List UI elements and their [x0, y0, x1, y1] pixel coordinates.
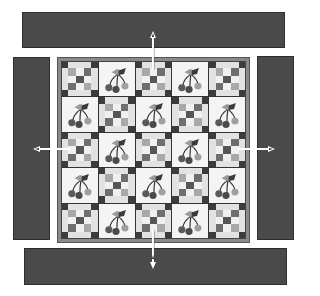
- nine-patch-square: [179, 126, 187, 132]
- nine-patch-square: [165, 154, 171, 161]
- nine-patch-square: [202, 111, 208, 118]
- nine-patch-square: [121, 126, 129, 132]
- nine-patch-square: [157, 90, 165, 96]
- nine-patch-square: [165, 139, 171, 146]
- nine-patch-square: [84, 224, 92, 231]
- nine-patch-square: [68, 210, 76, 217]
- nine-patch-square: [76, 68, 84, 75]
- nine-patch-square: [179, 182, 187, 189]
- nine-patch-square: [68, 161, 76, 167]
- nine-patch-square: [68, 232, 76, 238]
- nine-patch-square: [239, 90, 245, 96]
- nine-patch-square: [142, 139, 150, 146]
- nine-patch-square: [194, 111, 202, 118]
- cherry-applique-block: [172, 62, 208, 96]
- nine-patch-square: [216, 217, 224, 224]
- nine-patch-square: [142, 76, 150, 83]
- nine-patch-square: [202, 189, 208, 196]
- nine-patch-square: [150, 146, 158, 153]
- quilt-block-grid: [61, 61, 246, 239]
- nine-patch-square: [165, 217, 171, 224]
- nine-patch-square: [76, 232, 84, 238]
- nine-patch-square: [150, 210, 158, 217]
- nine-patch-square: [216, 90, 224, 96]
- cherry-applique-block: [99, 62, 135, 96]
- nine-patch-square: [179, 104, 187, 111]
- left-arrow-icon: [30, 144, 70, 154]
- nine-patch-square: [142, 210, 150, 217]
- nine-patch-square: [84, 217, 92, 224]
- nine-patch-square: [239, 83, 245, 90]
- nine-patch-square: [239, 217, 245, 224]
- nine-patch-square: [179, 111, 187, 118]
- nine-patch-square: [157, 83, 165, 90]
- nine-patch-square: [186, 189, 194, 196]
- nine-patch-square: [231, 83, 239, 90]
- nine-patch-square: [84, 161, 92, 167]
- nine-patch-square: [165, 224, 171, 231]
- nine-patch-square: [223, 139, 231, 146]
- cherry-applique-block: [209, 168, 245, 202]
- nine-patch-square: [68, 90, 76, 96]
- nine-patch-square: [223, 217, 231, 224]
- nine-patch-square: [216, 210, 224, 217]
- nine-patch-square: [223, 83, 231, 90]
- nine-patch-square: [91, 146, 97, 153]
- nine-patch-square: [157, 76, 165, 83]
- nine-patch-square: [150, 161, 158, 167]
- nine-patch-square: [231, 217, 239, 224]
- nine-patch-square: [91, 217, 97, 224]
- nine-patch-square: [216, 146, 224, 153]
- nine-patch-square: [128, 118, 134, 125]
- nine-patch-square: [76, 224, 84, 231]
- nine-patch-square: [157, 210, 165, 217]
- nine-patch-square: [165, 161, 171, 167]
- nine-patch-square: [202, 196, 208, 202]
- nine-patch-square: [223, 232, 231, 238]
- nine-patch-square: [113, 111, 121, 118]
- nine-patch-square: [105, 174, 113, 181]
- nine-patch-square: [157, 217, 165, 224]
- nine-patch-square: [157, 154, 165, 161]
- nine-patch-square: [113, 118, 121, 125]
- nine-patch-square: [68, 224, 76, 231]
- nine-patch-square: [142, 90, 150, 96]
- nine-patch-square: [165, 210, 171, 217]
- nine-patch-square: [68, 154, 76, 161]
- nine-patch-square: [194, 174, 202, 181]
- nine-patch-square: [186, 118, 194, 125]
- nine-patch-square: [128, 104, 134, 111]
- nine-patch-square: [76, 76, 84, 83]
- nine-patch-block: [99, 97, 135, 131]
- cherry-applique-block: [172, 204, 208, 238]
- nine-patch-block: [209, 204, 245, 238]
- nine-patch-square: [121, 104, 129, 111]
- nine-patch-square: [121, 118, 129, 125]
- nine-patch-square: [84, 76, 92, 83]
- cherry-applique-block: [209, 97, 245, 131]
- nine-patch-square: [91, 232, 97, 238]
- nine-patch-square: [76, 90, 84, 96]
- nine-patch-square: [76, 217, 84, 224]
- right-arrow-icon: [238, 144, 278, 154]
- nine-patch-square: [231, 154, 239, 161]
- cherry-applique-block: [172, 133, 208, 167]
- nine-patch-square: [113, 126, 121, 132]
- nine-patch-square: [216, 161, 224, 167]
- nine-patch-square: [121, 189, 129, 196]
- nine-patch-square: [179, 196, 187, 202]
- nine-patch-square: [165, 90, 171, 96]
- nine-patch-square: [142, 217, 150, 224]
- nine-patch-square: [68, 76, 76, 83]
- nine-patch-square: [91, 90, 97, 96]
- nine-patch-square: [194, 182, 202, 189]
- nine-patch-square: [76, 83, 84, 90]
- nine-patch-square: [142, 146, 150, 153]
- nine-patch-square: [91, 139, 97, 146]
- nine-patch-square: [202, 118, 208, 125]
- nine-patch-square: [113, 104, 121, 111]
- nine-patch-square: [84, 154, 92, 161]
- cherry-applique-block: [136, 168, 172, 202]
- nine-patch-square: [186, 126, 194, 132]
- nine-patch-block: [172, 97, 208, 131]
